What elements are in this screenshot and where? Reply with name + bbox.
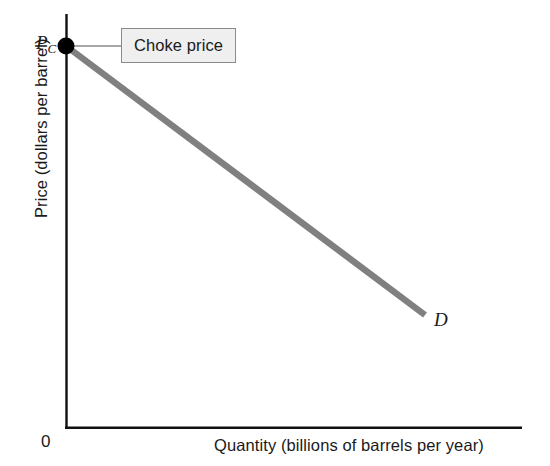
choke-price-point-marker: [58, 38, 75, 55]
demand-curve-figure: Price (dollars per barrel) Quantity (bil…: [0, 0, 550, 466]
choke-price-callout-box: Choke price: [121, 28, 236, 63]
chart-canvas: [0, 0, 550, 466]
demand-curve-label: D: [434, 310, 448, 329]
choke-price-symbol-base: P: [36, 32, 48, 53]
choke-price-callout-text: Choke price: [134, 36, 223, 55]
choke-price-axis-symbol: PC: [36, 33, 56, 55]
choke-price-symbol-subscript: C: [48, 41, 57, 56]
demand-curve-line: [66, 46, 425, 315]
x-axis-title: Quantity (billions of barrels per year): [214, 437, 484, 454]
origin-label: 0: [41, 433, 50, 450]
